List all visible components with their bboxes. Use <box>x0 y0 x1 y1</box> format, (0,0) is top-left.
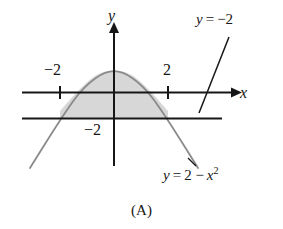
leader-line-y-equals-neg2 <box>199 37 229 113</box>
line-equation-label: y=−2 <box>196 12 233 27</box>
y-axis-label: y <box>108 8 115 24</box>
curve-equation-label: y=2 −x2 <box>163 168 219 183</box>
curve-equation-constant: 2 − <box>184 167 204 183</box>
x-tick-label-pos2: 2 <box>163 62 171 78</box>
plot-area <box>0 0 283 229</box>
curve-equation-exponent: 2 <box>214 165 219 176</box>
line-equation-operator: = <box>206 11 214 27</box>
line-equation-value: −2 <box>217 11 233 27</box>
curve-equation-var: y <box>163 167 170 183</box>
curve-equation-x: x <box>207 167 214 183</box>
x-axis-label: x <box>240 85 247 101</box>
figure-caption: (A) <box>0 202 283 219</box>
curve-equation-operator: = <box>173 167 181 183</box>
figure-panel: y x −2 2 −2 y=−2 y=2 −x2 (A) <box>0 0 283 229</box>
line-equation-var: y <box>196 11 203 27</box>
y-tick-label-neg2: −2 <box>84 122 101 138</box>
x-tick-label-neg2: −2 <box>44 62 61 78</box>
